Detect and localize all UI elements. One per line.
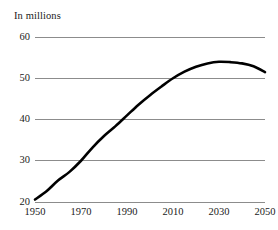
y-axis-tick-label: 30 [4,154,30,165]
plot-area [0,0,278,230]
x-axis-tick-label: 2030 [199,206,239,217]
data-line [35,62,265,200]
y-axis-tick-label: 50 [4,72,30,83]
x-axis-tick-label: 1950 [15,206,55,217]
x-axis-tick-label: 2010 [153,206,193,217]
x-axis-tick-label: 1970 [61,206,101,217]
y-axis-tick-label: 40 [4,113,30,124]
data-line-group [35,62,265,200]
line-chart: In millions 2030405060 19501970199020102… [0,0,278,230]
x-axis-tick-label: 2050 [245,206,278,217]
y-axis-tick-label: 20 [4,196,30,207]
y-axis-tick-label: 60 [4,31,30,42]
x-axis-tick-label: 1990 [107,206,147,217]
